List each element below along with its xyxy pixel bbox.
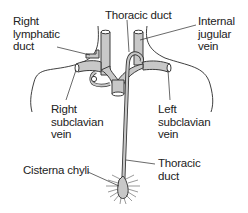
label-line: lymphatic: [13, 28, 60, 41]
right-subclavian-vein: [76, 61, 101, 72]
label-line: Internal: [198, 15, 235, 28]
left-subclavian-vein: [143, 61, 170, 72]
label-internal-jugular-vein: Internal jugular vein: [198, 15, 235, 53]
label-left-subclavian-vein: Left subclavian vein: [158, 103, 210, 141]
label-line: jugular: [198, 28, 235, 41]
label-line: Right: [51, 103, 103, 116]
label-right-subclavian-vein: Right subclavian vein: [51, 103, 103, 141]
label-line: Thoracic: [158, 157, 201, 170]
label-line: Cisterna chyli: [23, 164, 89, 177]
leader-right-subclavian: [66, 70, 76, 100]
leader-thoracic-bottom: [126, 160, 155, 164]
label-line: vein: [158, 128, 210, 141]
leader-thoracic-top: [127, 20, 129, 52]
leader-internal-jugular: [140, 25, 196, 40]
label-line: subclavian: [51, 116, 103, 129]
label-thoracic-duct-top: Thoracic duct: [105, 9, 171, 22]
label-thoracic-duct-bottom: Thoracic duct: [158, 157, 201, 182]
cisterna-chyli: [118, 176, 128, 199]
label-line: duct: [158, 170, 201, 183]
label-line: subclavian: [158, 116, 210, 129]
label-line: duct: [13, 40, 60, 53]
label-line: Left: [158, 103, 210, 116]
lymphatic-diagram: Right lymphatic duct Thoracic duct Inter…: [0, 0, 248, 213]
leader-cisterna: [88, 172, 119, 186]
right-lymphatic-duct: [86, 50, 99, 58]
label-line: Thoracic duct: [105, 9, 171, 22]
label-cisterna-chyli: Cisterna chyli: [23, 164, 89, 177]
label-right-lymphatic-duct: Right lymphatic duct: [13, 15, 60, 53]
label-line: vein: [51, 128, 103, 141]
label-line: Right: [13, 15, 60, 28]
leader-right-lymphatic: [57, 47, 90, 55]
label-line: vein: [198, 40, 235, 53]
leader-left-subclavian: [168, 70, 170, 100]
